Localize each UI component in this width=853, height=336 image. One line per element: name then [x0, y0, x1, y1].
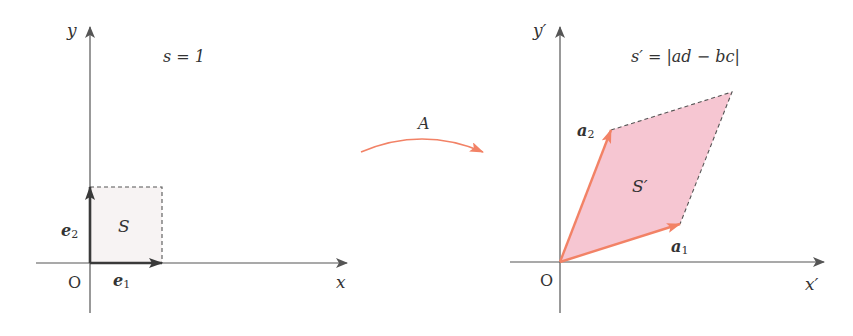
- y-axis-label: y: [66, 20, 77, 40]
- x-axis-label: x: [336, 272, 346, 292]
- linear-transformation-diagram: y x O s = 1 S e1 e2 A y′ x′ O s′ = |ad −…: [0, 0, 853, 336]
- origin-label: O: [540, 271, 553, 290]
- vector-e1-label: e1: [113, 271, 130, 291]
- x-prime-axis-label: x′: [805, 274, 819, 294]
- map-arrow: [361, 139, 483, 152]
- vector-e2-label: e2: [61, 221, 78, 241]
- left-panel: y x O s = 1 S e1 e2: [36, 20, 347, 313]
- area-formula: s = 1: [163, 47, 205, 66]
- origin-label: O: [68, 273, 81, 292]
- area-formula: s′ = |ad − bc|: [631, 47, 740, 66]
- region-label-S-prime: S′: [632, 176, 648, 196]
- right-panel: y′ x′ O s′ = |ad − bc| S′ a1 a2: [510, 20, 824, 313]
- region-label-S: S: [118, 216, 130, 236]
- vector-a2-label: a2: [577, 121, 594, 141]
- transform-mapping: A: [361, 114, 483, 152]
- y-prime-axis-label: y′: [532, 20, 547, 40]
- transform-label: A: [416, 114, 430, 133]
- vector-a1-label: a1: [671, 237, 688, 257]
